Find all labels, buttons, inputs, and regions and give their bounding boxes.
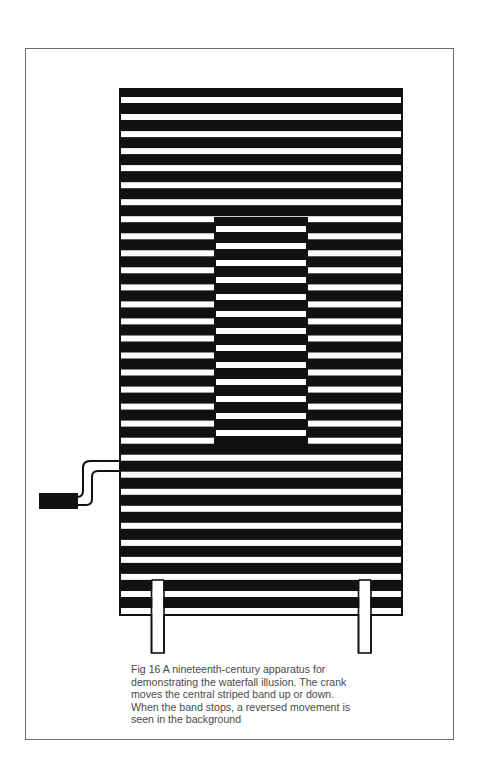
background-stripe: [121, 472, 401, 478]
band-stripe: [216, 294, 306, 300]
background-stripe: [121, 165, 401, 171]
caption-line-3: moves the central striped band up or dow…: [131, 688, 451, 701]
background-stripe: [121, 131, 401, 137]
background-stripe: [121, 506, 401, 512]
band-stripe: [216, 328, 306, 334]
caption-line-2: demonstrating the waterfall illusion. Th…: [131, 676, 451, 689]
band-stripe: [216, 243, 306, 249]
band-stripe: [216, 396, 306, 402]
background-stripe: [121, 523, 401, 529]
crank: [39, 461, 119, 509]
figure-caption: Fig 16 A nineteenth-century apparatus fo…: [131, 663, 451, 726]
band-stripe: [216, 413, 306, 419]
band-stripe: [216, 379, 306, 385]
background-stripe: [121, 574, 401, 580]
band-stripe: [216, 277, 306, 283]
waterfall-apparatus-diagram: [0, 0, 478, 777]
band-stripe: [216, 311, 306, 317]
crank-arm-outer: [77, 461, 119, 497]
background-stripe: [121, 148, 401, 154]
background-stripe: [121, 540, 401, 546]
background-stripe: [121, 199, 401, 205]
band-stripe: [216, 362, 306, 368]
caption-line-1: Fig 16 A nineteenth-century apparatus fo…: [131, 663, 451, 676]
background-stripe: [121, 182, 401, 188]
background-stripe: [121, 489, 401, 495]
central-striped-band: [214, 217, 308, 448]
band-stripe: [216, 226, 306, 232]
band-stripe: [216, 430, 306, 436]
caption-line-4: When the band stops, a reversed movement…: [131, 701, 451, 714]
background-stripe: [121, 97, 401, 103]
crank-arm-inner: [78, 471, 119, 505]
crank-handle: [39, 493, 78, 509]
background-stripe: [121, 114, 401, 120]
background-stripe: [121, 557, 401, 563]
band-stripe: [216, 260, 306, 266]
caption-line-5: seen in the background: [131, 713, 451, 726]
background-stripe: [121, 455, 401, 461]
band-stripe: [216, 345, 306, 351]
